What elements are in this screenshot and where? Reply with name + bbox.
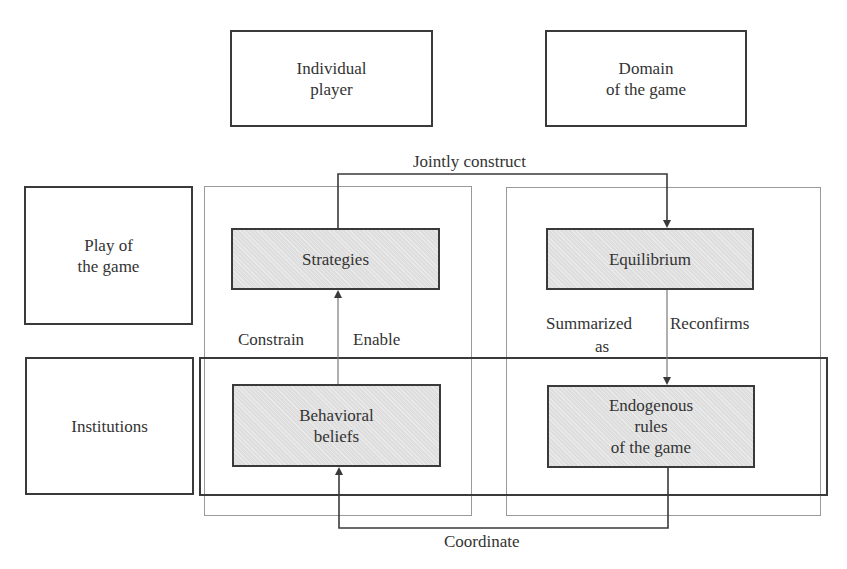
node-endogenous-rules: Endogenous rules of the game bbox=[547, 385, 755, 468]
arrowhead-up-icon bbox=[334, 290, 342, 298]
node-strategies: Strategies bbox=[231, 228, 440, 290]
label-enable: Enable bbox=[353, 330, 400, 350]
label-reconfirms: Reconfirms bbox=[670, 314, 749, 334]
arrowhead-down-icon bbox=[663, 377, 671, 385]
diagram-canvas: Individual player Domain of the game Pla… bbox=[0, 0, 847, 569]
label-jointly-construct: Jointly construct bbox=[413, 152, 526, 172]
coordinate-connector bbox=[339, 467, 668, 528]
node-behavioral-beliefs: Behavioral beliefs bbox=[232, 384, 441, 467]
arrowhead-down-icon bbox=[663, 220, 671, 228]
label-summarized: Summarized bbox=[546, 314, 632, 334]
label-coordinate: Coordinate bbox=[444, 532, 520, 552]
node-equilibrium: Equilibrium bbox=[546, 228, 754, 290]
label-as: as bbox=[595, 337, 609, 357]
jointly-construct-connector bbox=[338, 174, 667, 228]
arrowhead-up-icon bbox=[335, 467, 343, 475]
label-constrain: Constrain bbox=[238, 330, 304, 350]
